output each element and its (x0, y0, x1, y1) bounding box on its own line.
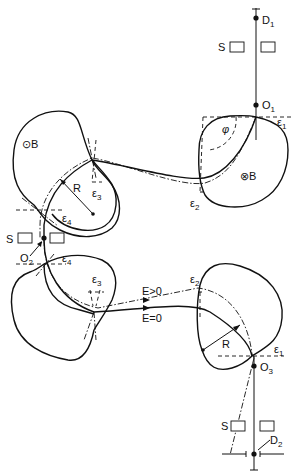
magnet-top-left: ⊙B R ε3 ε4 (13, 111, 119, 236)
label-phi: φ (222, 123, 229, 135)
label-eps3-bottom: ε3 (92, 273, 102, 288)
magnet-bottom-right: ε2 R ε1 (190, 264, 284, 370)
label-d2: D2 (270, 434, 283, 449)
label-energy-positive: E>0 (142, 285, 162, 297)
origin-o3-point (251, 363, 256, 368)
label-o3: O3 (260, 361, 274, 376)
label-eps4-bottom: ε4 (62, 252, 72, 267)
label-o1: O1 (262, 99, 276, 114)
slit-mid-right (50, 233, 64, 243)
label-energy-zero: E=0 (142, 312, 162, 324)
label-field-in-top: ⊗B (240, 170, 256, 182)
slit-top-right (261, 42, 275, 52)
label-eps2-bottom: ε2 (190, 273, 200, 288)
detector-d2-point (251, 451, 256, 456)
magnet-bottom-left: ε4 ε3 (11, 252, 115, 360)
label-d1: D1 (262, 14, 275, 29)
beam-top (40, 117, 256, 238)
middle-beamline: S O2 (6, 233, 64, 267)
origin-o1-point (253, 102, 258, 107)
slit-bottom-left (231, 421, 245, 431)
label-field-out: ⊙B (22, 138, 38, 150)
label-r-upper: R (73, 182, 81, 194)
label-eps3-top: ε3 (92, 187, 102, 202)
bottom-beamline: O3 S D2 (221, 356, 284, 470)
slit-top-left (230, 42, 244, 52)
label-r-lower: R (222, 338, 230, 350)
label-eps1-top: ε1 (277, 116, 287, 131)
label-eps2-top: ε2 (190, 197, 200, 212)
label-slit-top: S (218, 41, 225, 53)
slit-mid-left (18, 233, 32, 243)
detector-d1-point (253, 15, 258, 20)
magnet-top-right: φ ε1 ε2 ⊗B (190, 116, 292, 212)
spectrometer-diagram: D1 S O1 φ ε1 ε2 ⊗B ⊙B R ε3 (0, 0, 298, 472)
label-slit-mid: S (6, 233, 13, 245)
label-slit-bottom: S (221, 420, 228, 432)
origin-o2-point (41, 235, 46, 240)
slit-bottom-right (260, 421, 274, 431)
